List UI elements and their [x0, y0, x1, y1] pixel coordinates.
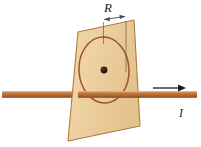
figure-canvas: R I	[0, 0, 201, 147]
wire-front-segment	[78, 92, 140, 98]
inclined-plane	[68, 20, 140, 141]
loop-center-dot	[101, 67, 108, 74]
physics-figure: R I	[0, 0, 201, 147]
wire-right-segment	[138, 92, 197, 98]
wire-behind-plane	[2, 92, 80, 98]
radius-label: R	[103, 0, 112, 15]
